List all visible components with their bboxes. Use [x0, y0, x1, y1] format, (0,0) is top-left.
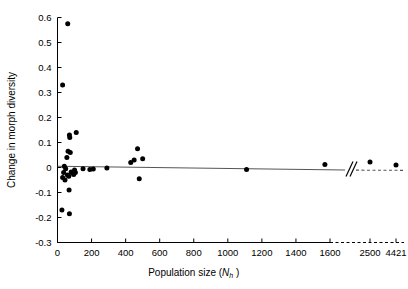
x-tick-label: 1400 [285, 247, 306, 258]
data-point [67, 211, 72, 216]
x-tick-label: 800 [186, 247, 202, 258]
data-point [394, 163, 399, 168]
data-point [140, 156, 145, 161]
chart-canvas: 0.60.50.40.30.20.10-0.1-0.2-0.3020040060… [0, 0, 408, 289]
data-point [368, 160, 373, 165]
data-point [81, 166, 86, 171]
data-point [67, 135, 72, 140]
data-point [64, 155, 69, 160]
y-tick-label: 0.6 [38, 12, 51, 23]
x-tick-label: 200 [84, 247, 100, 258]
y-tick-label: 0.1 [38, 137, 51, 148]
data-point [67, 188, 72, 193]
data-point [137, 176, 142, 181]
regression-line [58, 166, 346, 170]
data-point [135, 146, 140, 151]
x-axis-title-main: Population size ( [148, 267, 223, 278]
x-tick-label-broken: 4421 [385, 247, 406, 258]
scatter-plot-figure: 0.60.50.40.30.20.10-0.1-0.2-0.3020040060… [0, 0, 408, 289]
y-tick-label: 0 [46, 162, 51, 173]
data-point [62, 178, 67, 183]
x-tick-label: 0 [55, 247, 60, 258]
y-axis-title: Change in morph diversity [6, 72, 17, 188]
y-tick-label: -0.2 [35, 212, 51, 223]
y-tick-label: 0.4 [38, 62, 51, 73]
y-tick-label: -0.3 [35, 237, 51, 248]
data-point [322, 162, 327, 167]
x-tick-label: 600 [152, 247, 168, 258]
x-axis-title-close: ) [233, 267, 239, 278]
data-point [59, 208, 64, 213]
data-point [73, 170, 78, 175]
x-tick-label-broken: 2500 [359, 247, 380, 258]
axis-break-slash-1 [346, 162, 353, 177]
y-tick-label: 0.3 [38, 87, 51, 98]
data-point [132, 158, 137, 163]
data-point [65, 21, 70, 26]
data-point [68, 150, 73, 155]
x-tick-label: 1000 [217, 247, 238, 258]
x-tick-label: 400 [118, 247, 134, 258]
x-tick-label: 1200 [251, 247, 272, 258]
data-point [91, 167, 96, 172]
data-point [104, 166, 109, 171]
axis-break-slash-2 [350, 162, 357, 177]
y-tick-label: 0.5 [38, 37, 51, 48]
y-tick-label: -0.1 [35, 187, 51, 198]
data-point [74, 130, 79, 135]
x-tick-label: 1600 [319, 247, 340, 258]
data-point [244, 167, 249, 172]
x-axis-title: Population size (Nh ) [148, 267, 239, 280]
y-tick-label: 0.2 [38, 112, 51, 123]
data-point [60, 83, 65, 88]
